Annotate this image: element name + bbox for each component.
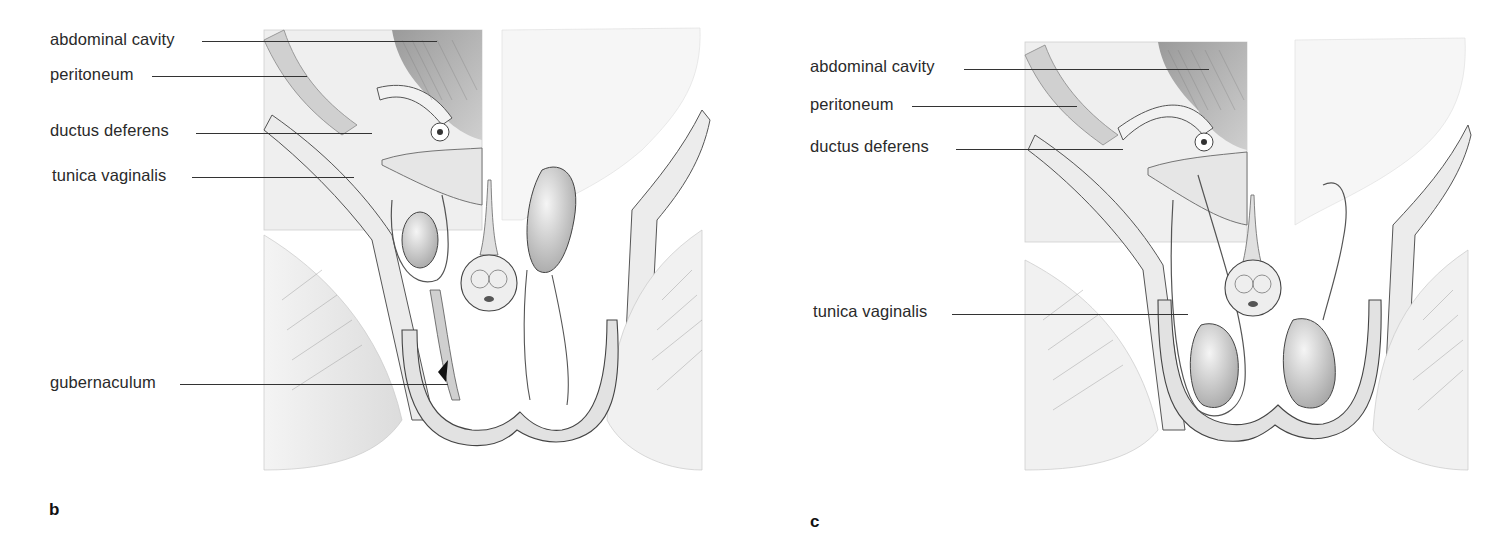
label-abdominal-cavity: abdominal cavity (50, 31, 175, 48)
right-testis (1283, 319, 1335, 408)
leader-line-tunica-vaginalis (952, 314, 1188, 315)
label-ductus-deferens: ductus deferens (50, 122, 169, 139)
panel-b: abdominal cavity peritoneum ductus defer… (0, 0, 760, 548)
illustration-panel-b (262, 0, 762, 548)
leader-line-gubernaculum (180, 384, 448, 385)
label-tunica-vaginalis: tunica vaginalis (52, 167, 166, 184)
label-peritoneum: peritoneum (50, 66, 134, 83)
penis-cross-section (461, 255, 517, 311)
panel-letter-c: c (810, 512, 819, 532)
leader-line-ductus-deferens (196, 133, 372, 134)
urethra (484, 296, 494, 302)
label-ductus-deferens: ductus deferens (810, 138, 929, 155)
testis (402, 212, 438, 268)
panel-letter-b: b (49, 500, 59, 520)
penis-stalk (480, 180, 498, 255)
ductus-lumen-center (437, 129, 443, 135)
right-processus (524, 270, 568, 405)
urethra (1248, 301, 1258, 307)
label-tunica-vaginalis: tunica vaginalis (813, 303, 927, 320)
leader-line-ductus-deferens (956, 149, 1123, 150)
label-peritoneum: peritoneum (810, 96, 894, 113)
left-thigh (1025, 260, 1158, 470)
illustration-panel-c (1023, 0, 1500, 548)
leader-line-peritoneum (912, 106, 1077, 107)
leader-line-abdominal-cavity (964, 69, 1209, 70)
leader-line-peritoneum (152, 76, 307, 77)
panel-c: abdominal cavity peritoneum ductus defer… (780, 0, 1500, 548)
leader-line-abdominal-cavity (202, 41, 437, 42)
label-abdominal-cavity: abdominal cavity (810, 58, 935, 75)
ductus-lumen-center (1201, 139, 1207, 145)
left-testis (1190, 324, 1238, 408)
right-thigh (1373, 250, 1468, 470)
penis-cross-section (1225, 260, 1281, 316)
scrotum (402, 320, 618, 446)
label-gubernaculum: gubernaculum (50, 374, 156, 391)
leader-line-tunica-vaginalis (192, 177, 354, 178)
